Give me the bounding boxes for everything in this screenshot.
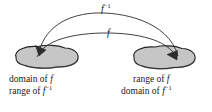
- right-caption-domain-exponent: −1: [165, 84, 172, 91]
- inverse-function-diagram: f−1 f domain of f range of f−1 range of …: [0, 0, 212, 112]
- arc-label-f: f: [107, 27, 110, 38]
- right-caption-range-prefix: range of: [133, 74, 167, 84]
- left-caption-range-prefix: range of: [9, 86, 43, 96]
- right-set-blob: [134, 46, 195, 69]
- left-set-blob: [16, 45, 78, 68]
- arc-label-f-inverse: f−1: [101, 3, 111, 14]
- arc-label-f-inverse-exponent: −1: [104, 2, 111, 9]
- arc-label-f-base: f: [107, 27, 110, 38]
- right-caption-domain-of-f-inverse: domain of f−1: [121, 86, 172, 97]
- left-caption-domain-prefix: domain of: [9, 74, 50, 84]
- left-caption-range-of-f-inverse: range of f−1: [9, 86, 52, 97]
- left-caption-domain-function: f: [50, 74, 53, 84]
- right-caption-range-function: f: [167, 74, 170, 84]
- left-caption-range-exponent: −1: [45, 84, 52, 91]
- right-caption-domain-prefix: domain of: [121, 86, 162, 96]
